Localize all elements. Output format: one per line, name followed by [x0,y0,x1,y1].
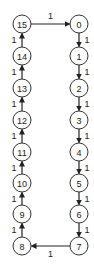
edge-10-to-11: 1 [11,162,22,175]
edge-1-to-2: 1 [79,65,90,79]
node-15: 15 [13,15,31,33]
node-9: 9 [13,205,31,223]
node-label: 2 [76,84,81,94]
node-label: 11 [17,148,26,158]
edge-6-to-7: 1 [79,223,90,237]
edge-weight-label: 1 [84,163,89,173]
node-label: 6 [76,210,81,220]
ring-graph-diagram: 1111111111111111 0123456789101112131415 [0,0,94,270]
node-label: 15 [17,20,27,30]
node-label: 4 [76,148,81,158]
node-label: 13 [17,84,27,94]
node-label: 14 [17,52,27,62]
edge-14-to-15: 1 [11,34,22,48]
edge-11-to-12: 1 [11,130,22,144]
node-14: 14 [13,47,31,65]
node-label: 1 [76,52,81,62]
edge-15-to-0: 1 [31,11,70,24]
edge-weight-label: 1 [84,131,89,141]
node-label: 5 [76,179,81,189]
edge-weight-label: 1 [48,11,53,21]
node-10: 10 [13,174,31,192]
node-1: 1 [70,47,88,65]
node-label: 12 [17,116,27,126]
edge-9-to-10: 1 [11,193,22,206]
edge-0-to-1: 1 [79,33,90,47]
node-4: 4 [70,143,88,161]
node-label: 8 [19,242,24,252]
node-5: 5 [70,174,88,192]
node-label: 3 [76,116,81,126]
edge-4-to-5: 1 [79,161,90,174]
node-3: 3 [70,111,88,129]
edge-7-to-8: 1 [32,246,71,259]
node-6: 6 [70,205,88,223]
edge-weight-label: 1 [11,67,16,77]
edge-weight-label: 1 [11,194,16,204]
edge-weight-label: 1 [84,225,89,235]
edge-weight-label: 1 [48,249,53,259]
edge-weight-label: 1 [11,163,16,173]
edge-weight-label: 1 [84,35,89,45]
node-label: 10 [17,179,27,189]
node-7: 7 [70,237,88,255]
edge-weight-label: 1 [84,99,89,109]
edge-8-to-9: 1 [11,224,22,238]
edge-13-to-14: 1 [11,66,22,80]
node-12: 12 [13,111,31,129]
node-label: 9 [19,210,24,220]
node-0: 0 [70,15,88,33]
edge-weight-label: 1 [11,99,16,109]
node-2: 2 [70,79,88,97]
node-13: 13 [13,79,31,97]
edge-12-to-13: 1 [11,98,22,112]
nodes-layer: 0123456789101112131415 [13,15,88,255]
node-11: 11 [13,143,31,161]
node-label: 0 [76,20,81,30]
edge-weight-label: 1 [11,225,16,235]
edge-weight-label: 1 [11,131,16,141]
node-8: 8 [13,237,31,255]
edge-5-to-6: 1 [79,192,90,205]
edge-weight-label: 1 [11,35,16,45]
edge-2-to-3: 1 [79,97,90,111]
node-label: 7 [76,242,81,252]
edge-3-to-4: 1 [79,129,90,143]
edge-weight-label: 1 [84,194,89,204]
edge-weight-label: 1 [84,67,89,77]
